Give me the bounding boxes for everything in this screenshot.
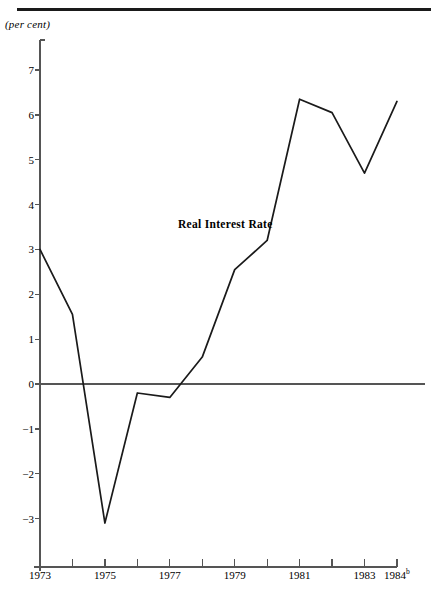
y-axis-tick-labels: −3−2−101234567 (4, 0, 34, 598)
axis-layer (34, 40, 397, 571)
y-tick-label: 3 (8, 243, 34, 255)
y-tick-label: −1 (8, 423, 34, 435)
y-tick-label: −3 (8, 513, 34, 525)
series-annotation-label: Real Interest Rate (178, 218, 273, 230)
x-tick-label: 1981 (289, 569, 311, 581)
y-tick-label: 0 (8, 378, 34, 390)
data-line-real-interest-rate (40, 99, 397, 523)
y-tick-label: 4 (8, 199, 34, 211)
x-tick-label: 1975 (94, 569, 116, 581)
y-tick-label: −2 (8, 468, 34, 480)
x-tick-label: 1973 (29, 569, 51, 581)
y-tick-label: 7 (8, 64, 34, 76)
data-series-layer (40, 99, 397, 523)
y-tick-label: 2 (8, 288, 34, 300)
chart-plot-area (0, 0, 443, 598)
y-tick-label: 6 (8, 109, 34, 121)
x-tick-label: 1983 (354, 569, 376, 581)
x-tick-footnote-marker: b (406, 567, 410, 576)
x-tick-label: 1979 (224, 569, 246, 581)
y-tick-label: 5 (8, 154, 34, 166)
x-tick-label: 1984b (384, 569, 410, 581)
figure-container: (per cent) −3−2−101234567 19731975197719… (0, 0, 443, 598)
y-tick-label: 1 (8, 333, 34, 345)
x-tick-label: 1977 (159, 569, 181, 581)
